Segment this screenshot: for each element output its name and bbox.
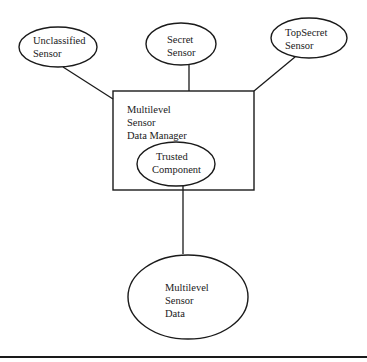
trusted-component-label: Trusted Component — [152, 150, 201, 176]
label-line: Secret — [167, 33, 196, 46]
secret-sensor-label: Secret Sensor — [167, 33, 196, 59]
label-line: Component — [152, 163, 201, 176]
label-line: Sensor — [165, 294, 209, 307]
unclassified-sensor-label: Unclassified Sensor — [33, 34, 86, 60]
edge-unclassified-to-manager — [63, 67, 113, 99]
topsecret-sensor-label: TopSecret Sensor — [285, 26, 327, 52]
label-line: Sensor — [33, 47, 86, 60]
label-line: Unclassified — [33, 34, 86, 47]
label-line: Trusted — [152, 150, 201, 163]
label-line: Multilevel — [165, 281, 209, 294]
label-line: Multilevel — [127, 103, 187, 116]
bottom-divider — [0, 356, 367, 358]
label-line: Sensor — [285, 39, 327, 52]
data-manager-label: Multilevel Sensor Data Manager — [127, 103, 187, 142]
label-line: TopSecret — [285, 26, 327, 39]
edge-topsecret-to-manager — [254, 57, 295, 91]
label-line: Sensor — [167, 46, 196, 59]
label-line: Data Manager — [127, 129, 187, 142]
label-line: Sensor — [127, 116, 187, 129]
sensor-data-label: Multilevel Sensor Data — [165, 281, 209, 320]
label-line: Data — [165, 307, 209, 320]
